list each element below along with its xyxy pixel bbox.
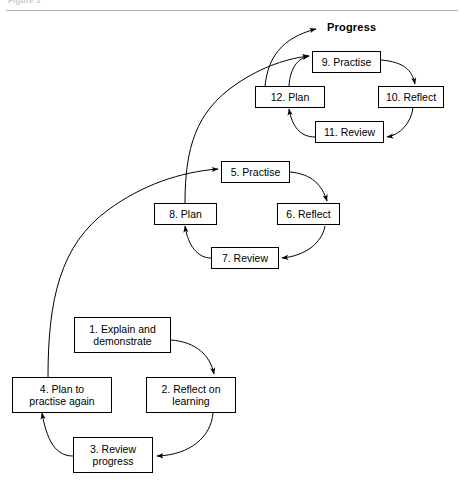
node-label-n12: 12. Plan: [271, 91, 310, 104]
arrow-11-to-12: [289, 109, 315, 137]
node-box-n6: 6. Reflect: [277, 203, 340, 225]
arrow-3-to-4: [42, 413, 73, 456]
node-box-n8: 8. Plan: [154, 203, 217, 225]
arrow-1-to-2: [171, 340, 214, 374]
node-label-n8: 8. Plan: [169, 208, 202, 221]
arrow-7-to-8: [185, 226, 211, 258]
arrow-9-to-10: [381, 60, 415, 84]
node-label-n6: 6. Reflect: [286, 208, 330, 221]
node-label-n3: 3. Review progress: [90, 443, 136, 468]
node-box-n11: 11. Review: [315, 121, 384, 143]
node-box-n10: 10. Reflect: [378, 86, 444, 108]
arrow-12-to-9: [289, 56, 309, 86]
node-box-n3: 3. Review progress: [73, 437, 153, 473]
arrow-2-to-3: [157, 413, 213, 456]
node-label-n7: 7. Review: [222, 252, 268, 265]
figure-diagram: Figure 1 1. Explain and demonstrate2. Re…: [0, 0, 461, 482]
node-label-n11: 11. Review: [324, 126, 375, 139]
node-box-n9: 9. Practise: [312, 51, 381, 73]
node-label-n1: 1. Explain and demonstrate: [89, 323, 156, 348]
node-label-n5: 5. Practise: [231, 166, 281, 179]
arrow-10-to-11: [387, 108, 413, 137]
arrow-6-to-7: [282, 226, 325, 258]
node-label-n9: 9. Practise: [322, 56, 372, 69]
node-box-n5: 5. Practise: [221, 161, 290, 183]
node-label-n2: 2. Reflect on learning: [162, 383, 221, 408]
node-box-n12: 12. Plan: [255, 86, 325, 108]
node-box-n1: 1. Explain and demonstrate: [74, 317, 171, 353]
arrow-5-to-6: [290, 172, 327, 201]
progress-label: Progress: [327, 21, 376, 33]
node-label-n10: 10. Reflect: [386, 91, 436, 104]
node-label-n4: 4. Plan to practise again: [29, 383, 94, 408]
node-box-n7: 7. Review: [211, 247, 279, 269]
node-box-n4: 4. Plan to practise again: [12, 377, 112, 413]
node-box-n2: 2. Reflect on learning: [146, 377, 236, 413]
